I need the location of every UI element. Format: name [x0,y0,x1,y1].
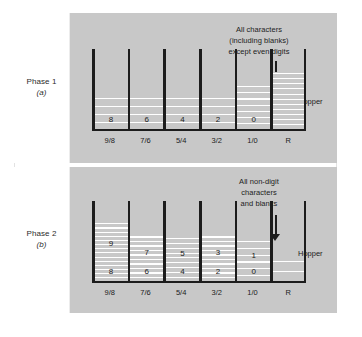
bin-caption-3-2: 3/2 [199,137,235,145]
phase-panel-1: Phase 1 (a) All characters (including bl… [14,13,337,163]
card-stripe [237,92,270,93]
bin-digit-lower: 8 [95,268,128,276]
card-stripe [237,241,270,242]
phase-1-caption: Phase 1 (a) [14,13,70,163]
card-stripe [273,261,306,262]
bin-9-8: 89 [95,201,128,281]
card-stripe [130,259,163,260]
card-stripe [130,106,163,107]
card-stack [166,97,199,129]
bin-1-0: 01 [237,201,270,281]
bin-wall-end [304,49,307,131]
card-stripe [202,241,235,242]
bin-3-2: 2 [202,49,235,129]
card-stripe [273,124,306,125]
card-stripe [95,223,128,224]
card-stripe [95,252,128,253]
card-stripe [237,248,270,249]
figure-root: Phase 1 (a) All characters (including bl… [0,0,362,337]
bin-1-0: 0 [237,49,270,129]
bin-digit-upper: 5 [166,250,199,258]
phase-2-plot: All non-digit characters and blanks Hopp… [70,167,337,313]
card-stripe [95,232,128,233]
bin-7-6: 6 [130,49,163,129]
phase-1-plot: All characters (including blanks) except… [70,13,337,163]
card-stripe [95,257,128,258]
bin-digit-lower: 8 [95,116,128,124]
bin-digit-lower: 4 [166,116,199,124]
card-stack [130,97,163,129]
card-stack [273,72,306,129]
card-stripe [237,105,270,106]
bin-wall [163,201,166,283]
bin-caption-3-2: 3/2 [199,289,235,297]
bin-wall [270,201,273,283]
card-stripe [130,241,163,242]
phase-2-sublabel: (b) [37,240,47,251]
card-stripe [273,88,306,89]
bin-wall [128,49,131,131]
card-stripe [202,245,235,246]
card-stripe [237,261,270,262]
bin-wall [235,201,238,283]
card-stripe [130,277,163,278]
card-stripe [273,271,306,272]
bin-5-4: 4 [166,49,199,129]
bin-wall-end [304,201,307,283]
bin-wall [235,49,238,131]
phase-2-rack: 8967452301 [92,201,306,283]
bin-wall [199,201,202,283]
card-stripe [273,119,306,120]
card-stripe [273,78,306,79]
bin-9-8: 8 [95,49,128,129]
card-stripe [166,277,199,278]
bin-digit-lower: 2 [202,268,235,276]
annotation-line-2: (including blanks) [211,36,307,47]
card-stripe [202,263,235,264]
annotation-line-2: characters [211,188,307,199]
bin-caption-R: R [270,137,306,145]
phase-1-label: Phase 1 [26,77,56,88]
bin-digit-upper: 1 [237,252,270,260]
card-stripe [273,83,306,84]
annotation-line-1: All characters [211,25,307,36]
bin-wall [163,49,166,131]
bin-wall [270,49,273,131]
bin-R [273,49,306,129]
card-stack [273,260,306,280]
bin-5-4: 45 [166,201,199,281]
card-stripe [95,265,128,266]
bin-wall [199,49,202,131]
phase-1-sublabel: (a) [37,88,47,99]
bin-3-2: 23 [202,201,235,281]
card-stripe [95,277,128,278]
card-stripe [202,98,235,99]
bin-digit-upper: 7 [130,249,163,257]
card-stripe [202,259,235,260]
card-stripe [95,236,128,237]
card-stripe [237,111,270,112]
card-stripe [166,262,199,263]
card-stack [95,97,128,129]
card-stripe [202,106,235,107]
bin-wall [92,201,95,283]
card-stripe [237,98,270,99]
card-stripe [273,104,306,105]
bin-digit-lower: 6 [130,268,163,276]
card-stripe [95,248,128,249]
phase-2-label: Phase 2 [26,229,56,240]
bin-caption-5-4: 5/4 [163,289,199,297]
card-stripe [166,98,199,99]
card-stripe [95,98,128,99]
card-stripe [166,106,199,107]
card-stripe [130,98,163,99]
card-stripe [273,109,306,110]
phase-2-caption: Phase 2 (b) [14,167,70,313]
bin-caption-R: R [270,289,306,297]
bin-caption-9-8: 9/8 [92,289,128,297]
card-stripe [130,263,163,264]
card-stripe [273,94,306,95]
bin-wall [92,49,95,131]
card-stripe [166,238,199,239]
bin-digit-lower: 2 [202,116,235,124]
